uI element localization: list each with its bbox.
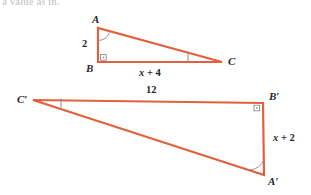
right-angle-dot-b (103, 57, 105, 59)
vertex-label-a-prime: A′ (268, 176, 278, 187)
side-label-b-prime-a-prime: x + 2 (273, 133, 295, 144)
vertex-label-a: A (92, 14, 99, 25)
angle-arc-a (98, 33, 109, 41)
triangle-a-prime-b-prime-c-prime-group (33, 99, 264, 176)
vertex-label-c: C (228, 56, 235, 67)
side-label-bc: x + 4 (139, 68, 161, 79)
angle-arc-a-prime (250, 160, 264, 170)
side-label-c-prime-b-prime: 12 (146, 85, 157, 96)
triangle-a-prime-b-prime-c-prime-outline (33, 100, 264, 175)
vertex-label-b-prime: B′ (269, 91, 279, 102)
right-angle-dot-b-prime (256, 107, 258, 109)
triangle-abc-outline (98, 28, 222, 62)
triangle-abc-group (98, 28, 222, 62)
geometry-figure: a value as in. A B C 2 (0, 0, 311, 195)
geometry-canvas (0, 0, 311, 195)
vertex-label-c-prime: C′ (17, 94, 27, 105)
vertex-label-b: B (86, 63, 93, 74)
side-label-ab: 2 (82, 39, 87, 50)
